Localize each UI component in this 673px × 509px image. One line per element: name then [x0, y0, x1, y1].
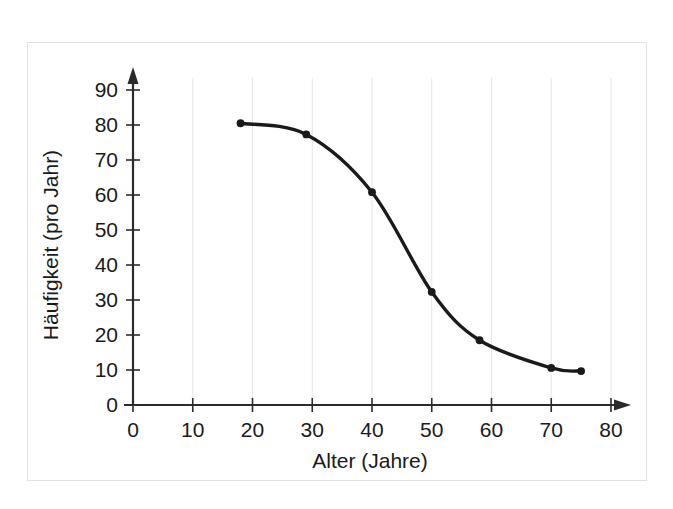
x-axis-title: Alter (Jahre): [312, 449, 428, 472]
data-point-58: [476, 336, 484, 344]
data-series-group: [237, 119, 585, 375]
y-tick-label-80: 80: [95, 113, 118, 136]
y-axis-title: Häufigkeit (pro Jahr): [39, 150, 62, 340]
y-tick-label-90: 90: [95, 78, 118, 101]
y-tick-label-40: 40: [95, 253, 118, 276]
x-axis-arrow-icon: [614, 400, 631, 411]
y-axis-arrow-icon: [128, 67, 139, 84]
data-point-50: [428, 288, 436, 296]
x-tick-label-20: 20: [241, 418, 264, 441]
x-tick-label-60: 60: [480, 418, 503, 441]
x-tick-label-40: 40: [360, 418, 383, 441]
data-point-70: [547, 364, 555, 372]
data-point-29: [302, 131, 310, 139]
x-tick-label-50: 50: [420, 418, 443, 441]
y-tick-label-60: 60: [95, 183, 118, 206]
y-tick-label-50: 50: [95, 218, 118, 241]
y-tick-label-20: 20: [95, 323, 118, 346]
y-tick-label-70: 70: [95, 148, 118, 171]
y-tick-label-0: 0: [106, 393, 118, 416]
series-markers-haeufigkeit: [237, 119, 585, 375]
x-tick-label-0: 0: [127, 418, 139, 441]
x-tick-label-80: 80: [599, 418, 622, 441]
series-line-haeufigkeit: [241, 123, 582, 371]
axes-group: [124, 67, 631, 411]
y-tick-label-30: 30: [95, 288, 118, 311]
figure-container: 0102030405060708090 01020304050607080 Al…: [0, 0, 673, 509]
x-tick-label-70: 70: [540, 418, 563, 441]
data-point-18: [237, 119, 245, 127]
x-tick-label-30: 30: [301, 418, 324, 441]
line-chart: 0102030405060708090 01020304050607080 Al…: [0, 0, 673, 509]
y-tick-label-10: 10: [95, 358, 118, 381]
data-point-40: [368, 188, 376, 196]
data-point-75: [577, 367, 585, 375]
x-tick-label-10: 10: [181, 418, 204, 441]
